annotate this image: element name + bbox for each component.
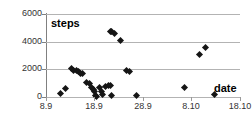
gridline-6000 bbox=[46, 14, 240, 15]
gridline-4000 bbox=[46, 42, 240, 43]
x-tick-label-8-9: 8.9 bbox=[24, 102, 68, 111]
y-tick-label-4000: 4000 bbox=[2, 37, 42, 46]
scatter-chart: 6000 4000 2000 0 8.9 18.9 28.9 8.10 18.1… bbox=[0, 0, 252, 124]
x-tick-label-18-10: 18.10 bbox=[218, 102, 252, 111]
x-tick-label-8-10: 8.10 bbox=[169, 102, 213, 111]
x-axis-title: date bbox=[214, 83, 237, 94]
data-point bbox=[196, 51, 203, 58]
y-tick-label-6000: 6000 bbox=[2, 9, 42, 18]
data-point bbox=[57, 90, 64, 97]
data-point bbox=[202, 44, 209, 51]
data-point bbox=[62, 84, 69, 91]
y-axis-title: steps bbox=[51, 18, 80, 29]
data-point bbox=[133, 92, 140, 99]
y-tick-label-0: 0 bbox=[2, 92, 42, 101]
data-point bbox=[181, 84, 188, 91]
y-tick-label-2000: 2000 bbox=[2, 64, 42, 73]
x-tick-label-28-9: 28.9 bbox=[121, 102, 165, 111]
data-point bbox=[117, 37, 124, 44]
data-point bbox=[111, 30, 118, 37]
x-tick-label-18-9: 18.9 bbox=[72, 102, 116, 111]
